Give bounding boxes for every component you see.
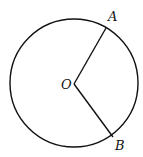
- label-point-b: B: [114, 138, 125, 153]
- label-point-a: A: [107, 9, 117, 24]
- circle-diagram: O A B: [0, 0, 143, 157]
- label-center-o: O: [61, 77, 72, 92]
- radius-ob: [74, 84, 113, 137]
- radius-oa: [74, 28, 106, 84]
